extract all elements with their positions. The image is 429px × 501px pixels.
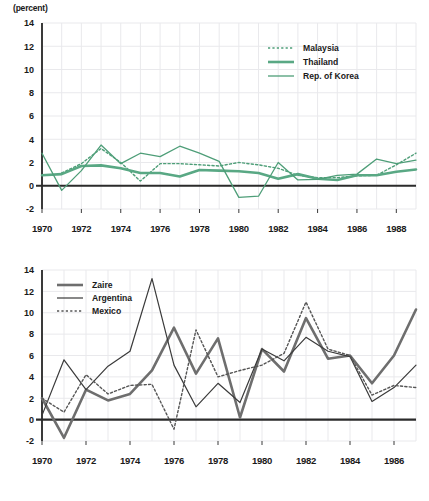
legend-label-thailand: Thailand [303,57,338,67]
y-axis-unit-label: (percent) [13,3,48,13]
y-tick-label: 14 [24,265,34,275]
legend-label-zaire: Zaire [92,280,113,290]
y-tick-label: 10 [24,308,34,318]
x-tick-label: 1974 [111,223,132,234]
x-tick-label: 1986 [384,455,404,466]
x-tick-label: 1970 [32,223,52,234]
legend-label-mexico: Mexico [92,306,121,316]
legend-label-malaysia: Malaysia [303,43,339,53]
legend: ZaireArgentinaMexico [57,280,132,316]
series-line-mexico [42,302,416,429]
gridlines [42,23,416,209]
x-tick-label: 1980 [252,455,272,466]
y-tick-label: -2 [26,204,34,214]
chart-developing-asia: (percent) -20246810121419701972197419761… [0,0,429,252]
legend-label-argentina: Argentina [92,293,132,303]
legend: MalaysiaThailandRep. of Korea [268,43,359,81]
line-chart-bottom: -202468101214197019721974197619781980198… [0,252,429,501]
legend-label-rep-of-korea: Rep. of Korea [303,71,359,81]
y-tick-label: 2 [29,158,34,168]
y-tick-label: 6 [29,351,34,361]
y-tick-label: 8 [29,88,34,98]
y-tick-label: 10 [24,65,34,75]
series-group [42,145,416,197]
y-tick-label: 0 [29,415,34,425]
x-tick-label: 1984 [308,223,329,234]
y-tick-label: 2 [29,394,34,404]
y-tick-label: 12 [24,287,34,297]
x-tick-label: 1972 [76,455,96,466]
y-tick-label: 0 [29,181,34,191]
x-tick-label: 1988 [386,223,406,234]
x-tick-label: 1978 [190,223,210,234]
x-tick-label: 1982 [296,455,316,466]
x-tick-label: 1976 [150,223,170,234]
x-tick-label: 1980 [229,223,249,234]
x-tick-label: 1984 [340,455,361,466]
x-tick-label: 1982 [268,223,288,234]
y-tick-label: 12 [24,42,34,52]
x-axis: 197019721974197619781980198219841986 [32,441,404,466]
chart-page: (percent) -20246810121419701972197419761… [0,0,429,501]
x-axis: 1970197219741976197819801982198419861988 [32,209,406,234]
y-tick-label: 14 [24,18,34,28]
y-tick-label: 8 [29,329,34,339]
chart-latin-america-africa: -202468101214197019721974197619781980198… [0,252,429,501]
y-tick-label: 4 [29,135,34,145]
x-tick-label: 1976 [164,455,184,466]
line-chart-top: -202468101214197019721974197619781980198… [0,0,429,252]
y-tick-label: 6 [29,111,34,121]
y-tick-label: -2 [26,436,34,446]
y-tick-label: 4 [29,372,34,382]
x-tick-label: 1972 [71,223,91,234]
x-tick-label: 1970 [32,455,52,466]
x-tick-label: 1986 [347,223,367,234]
x-tick-label: 1974 [120,455,141,466]
x-tick-label: 1978 [208,455,228,466]
